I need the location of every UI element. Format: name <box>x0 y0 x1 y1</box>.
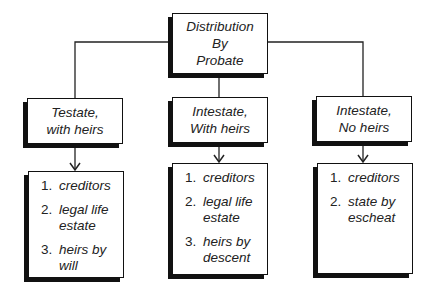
header-line-1: Testate, <box>51 104 99 121</box>
header-line-2: No heirs <box>339 119 389 136</box>
list-item: 2.legal life estate <box>41 202 117 234</box>
header-line-1: Intestate, <box>192 103 248 120</box>
branch-header-intestate-no-heirs: Intestate, No heirs <box>316 96 412 142</box>
header-line-1: Intestate, <box>336 102 392 119</box>
header-line-2: with heirs <box>46 121 103 138</box>
connector-root-to-testate <box>75 42 172 98</box>
root-line-1: Distribution <box>186 18 254 35</box>
list-testate-with-heirs: 1.creditors 2.legal life estate 3.heirs … <box>28 171 124 278</box>
list-intestate-with-heirs: 1.creditors 2.legal life estate 3.heirs … <box>172 163 268 275</box>
list-item: 1.creditors <box>41 178 117 194</box>
list-item: 3.heirs by will <box>41 242 117 274</box>
root-node-distribution-by-probate: Distribution By Probate <box>172 13 268 74</box>
branch-header-intestate-with-heirs: Intestate, With heirs <box>172 97 268 143</box>
list-item: 2.state by escheat <box>330 194 406 226</box>
root-line-3: Probate <box>196 52 243 69</box>
header-line-2: With heirs <box>190 120 250 137</box>
connector-root-to-intestate-no-heirs <box>268 42 363 96</box>
list-item: 1.creditors <box>330 170 406 186</box>
list-item: 3.heirs by descent <box>185 234 261 266</box>
list-item: 2.legal life estate <box>185 194 261 226</box>
branch-header-testate-with-heirs: Testate, with heirs <box>27 98 123 144</box>
list-intestate-no-heirs: 1.creditors 2.state by escheat <box>317 163 413 274</box>
list-item: 1.creditors <box>185 170 261 186</box>
root-line-2: By <box>212 35 228 52</box>
